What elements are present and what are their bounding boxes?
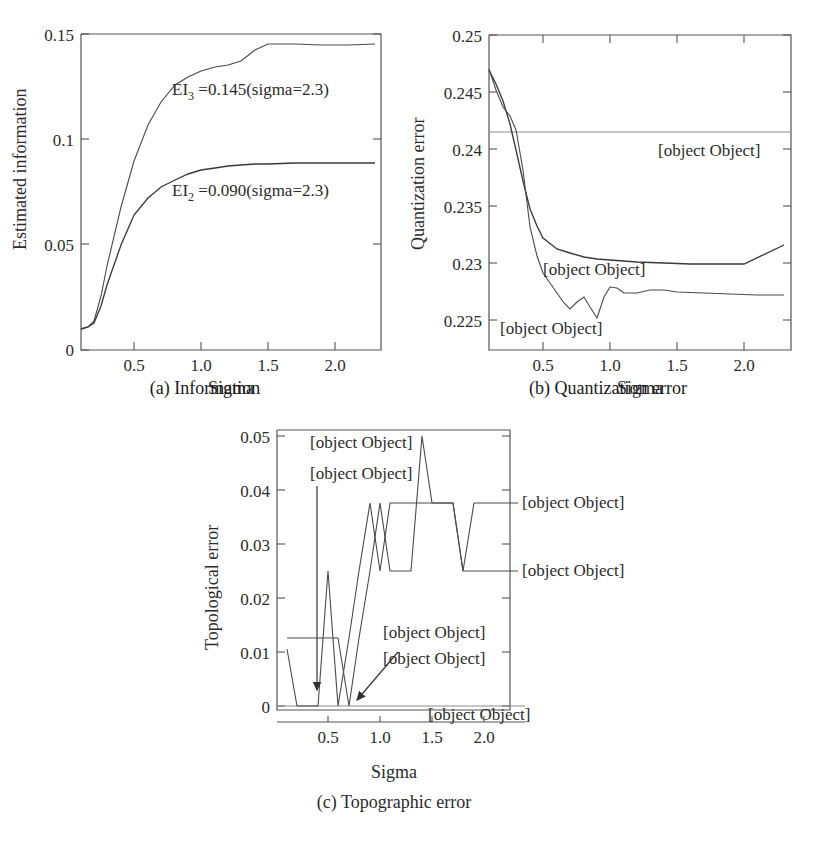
chart-a-annotation-ei3: EI3 =0.145(sigma=2.3): [172, 80, 329, 103]
chart-a-ylabel: Estimated information: [10, 89, 30, 250]
chart-b-series-2nd-stage: [489, 70, 784, 264]
chart-b-annotation-2nd-stage: [object Object]: [543, 260, 645, 279]
chart-c-ytick-0: 0: [262, 698, 271, 717]
chart-a-x-ticks: [134, 342, 335, 350]
chart-c-xtick-15: 1.5: [421, 728, 442, 747]
chart-b-series-3rd-stage: [489, 69, 784, 318]
chart-c-edge-label-0038: [object Object]: [522, 493, 624, 512]
annot-ei2-prefix: EI: [172, 181, 188, 200]
chart-c-ytick-001: 0.01: [240, 644, 270, 663]
panel-information: Estimated information 0.15 0.1 0.05 0 0.…: [0, 0, 410, 400]
chart-b-ytick-0250: 0.25: [452, 27, 482, 46]
chart-c-caption: (c) Topographic error: [317, 792, 471, 813]
chart-a-xtick-05: 0.5: [123, 356, 144, 375]
chart-b-xtick-20: 2.0: [733, 356, 754, 375]
chart-c-xtick-05: 0.5: [317, 728, 338, 747]
chart-a-xtick-10: 1.0: [190, 356, 211, 375]
chart-a-ytick-0: 0: [66, 341, 75, 360]
chart-c-ytick-002: 0.02: [240, 590, 270, 609]
chart-b-ylabel: Quantization error: [408, 118, 428, 250]
chart-a-ytick-0050: 0.05: [44, 236, 74, 255]
chart-c-annotation-3rd-stage-2: [object Object]: [310, 464, 412, 483]
chart-b-annotation-3rd-stage: [object Object]: [500, 319, 602, 338]
chart-c-xtick-20: 2.0: [473, 728, 494, 747]
chart-b-xtick-15: 1.5: [666, 356, 687, 375]
chart-c-xlabel: Sigma: [371, 762, 417, 782]
chart-b-ytick-0240: 0.24: [452, 141, 482, 160]
chart-b-xtick-05: 0.5: [532, 356, 553, 375]
chart-b-xtick-10: 1.0: [599, 356, 620, 375]
chart-b-x-ticks: [543, 35, 744, 350]
chart-c-ytick-004: 0.04: [240, 482, 270, 501]
chart-a-ytick-0150: 0.15: [44, 26, 74, 45]
chart-c-annotation-3rd-stage-1: [object Object]: [310, 433, 412, 452]
chart-c-annotation-2nd-stage-2: [object Object]: [383, 649, 485, 668]
chart-c-series-3rd-stage: [287, 503, 518, 706]
chart-c-ytick-003: 0.03: [240, 536, 270, 555]
chart-c-annotation-2nd-stage-1: [object Object]: [383, 623, 485, 642]
panel-quantization-error: Quantization error 0.25 0.245 0.24 0.235…: [400, 0, 816, 400]
panel-topographic-error: Topological error 0.05 0.04 0.03 0.02 0.…: [140, 400, 816, 845]
chart-b-annotation-som: [object Object]: [658, 141, 760, 160]
chart-a-xtick-20: 2.0: [324, 356, 345, 375]
chart-a-caption: (a) Information: [150, 378, 260, 398]
chart-c-ylabel: Topological error: [202, 525, 222, 650]
chart-b-ytick-0225: 0.225: [444, 312, 482, 331]
chart-b-ytick-0245: 0.245: [444, 84, 482, 103]
annot-ei2-text: =0.090(sigma=2.3): [194, 181, 329, 200]
annot-ei3-prefix: EI: [172, 80, 188, 99]
chart-c-edge-label-0025: [object Object]: [522, 561, 624, 580]
chart-c-arrow-2nd-stage: [357, 652, 398, 700]
chart-a-svg: Estimated information 0.15 0.1 0.05 0 0.…: [0, 0, 410, 400]
chart-c-annotation-som: [object Object]: [428, 705, 530, 724]
chart-a-annotation-ei2: EI2 =0.090(sigma=2.3): [172, 181, 329, 204]
chart-b-svg: Quantization error 0.25 0.245 0.24 0.235…: [400, 0, 816, 400]
chart-b-caption: (b) Quantization error: [529, 378, 687, 398]
annot-ei3-text: =0.145(sigma=2.3): [194, 80, 329, 99]
chart-b-ytick-0235: 0.235: [444, 198, 482, 217]
chart-a-ytick-0100: 0.1: [53, 131, 74, 150]
chart-c-xtick-10: 1.0: [369, 728, 390, 747]
chart-b-ytick-0230: 0.23: [452, 255, 482, 274]
chart-a-xtick-15: 1.5: [257, 356, 278, 375]
chart-b-frame: [489, 35, 791, 350]
chart-c-svg: Topological error 0.05 0.04 0.03 0.02 0.…: [140, 400, 816, 845]
chart-c-ytick-005: 0.05: [240, 428, 270, 447]
